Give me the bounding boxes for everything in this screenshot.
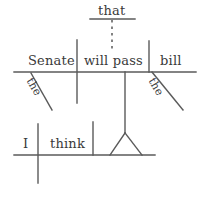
label-subject-senate: Senate <box>28 54 75 67</box>
label-subject-i: I <box>23 137 28 150</box>
label-verb-think: think <box>50 137 85 150</box>
stand-leg-right <box>125 133 142 155</box>
stand-leg-left <box>110 133 125 155</box>
label-conjunction-that: that <box>98 4 125 17</box>
sentence-diagram-canvas: that Senate will pass bill the the I thi… <box>0 0 202 200</box>
label-verb-will-pass: will pass <box>84 54 143 67</box>
label-object-bill: bill <box>160 54 182 67</box>
diagram-strokes <box>0 0 202 200</box>
